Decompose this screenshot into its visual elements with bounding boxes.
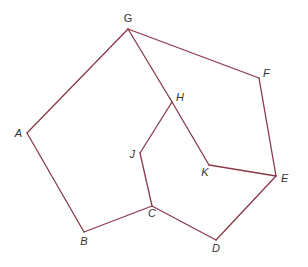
edge-a-b	[27, 133, 84, 232]
edge-g-h	[128, 29, 172, 102]
vertex-label-e: E	[281, 172, 289, 184]
edge-j-c	[140, 153, 152, 206]
graph-diagram: GFEDCBAHJK	[0, 0, 308, 267]
vertex-label-f: F	[263, 67, 271, 79]
edge-b-c	[84, 206, 152, 232]
edge-g-a	[27, 29, 128, 133]
edge-h-j	[140, 102, 172, 153]
vertex-labels-group: GFEDCBAHJK	[14, 12, 289, 254]
vertex-label-b: B	[80, 235, 87, 247]
edge-k-e	[209, 165, 276, 176]
vertex-label-k: K	[201, 166, 209, 178]
vertex-label-g: G	[124, 12, 133, 24]
edge-c-d	[152, 206, 216, 240]
vertex-label-h: H	[176, 91, 184, 103]
edge-d-e	[216, 176, 276, 240]
vertex-label-j: J	[129, 148, 136, 160]
edge-h-k	[172, 102, 209, 165]
vertex-label-d: D	[212, 242, 220, 254]
edge-f-g	[128, 29, 259, 78]
edge-e-f	[259, 78, 276, 176]
vertex-label-a: A	[14, 127, 22, 139]
vertex-label-c: C	[148, 207, 156, 219]
